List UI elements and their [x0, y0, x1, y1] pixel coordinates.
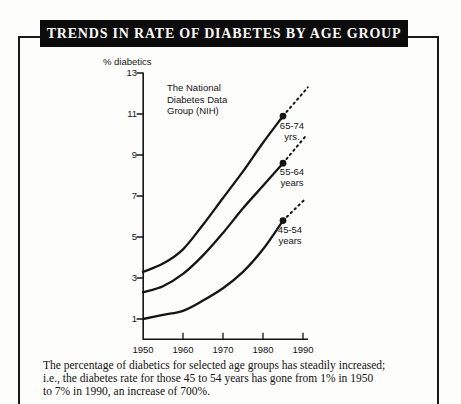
x-axis-ticks [183, 333, 303, 340]
y-tick-7: 7 [111, 190, 137, 202]
x-tick-1990: 1990 [288, 344, 318, 355]
y-axis-ticks [137, 73, 143, 319]
x-tick-1970: 1970 [208, 344, 238, 355]
y-tick-13: 13 [111, 67, 137, 79]
x-tick-1980: 1980 [248, 344, 278, 355]
curve-45-54 [143, 221, 283, 319]
y-axis-label: % diabetics [103, 56, 152, 67]
y-tick-11: 11 [111, 108, 137, 120]
y-tick-3: 3 [111, 272, 137, 284]
x-tick-1960: 1960 [168, 344, 198, 355]
data-point-45-54 [280, 217, 287, 224]
y-tick-1: 1 [111, 313, 137, 325]
series-label-65-74: 65-74 yrs. [276, 121, 308, 142]
series-label-45-54: 45-54 years [274, 225, 306, 246]
diabetes-trends-figure: TRENDS IN RATE OF DIABETES BY AGE GROUP … [0, 0, 461, 404]
x-tick-1950: 1950 [128, 344, 158, 355]
projection-65-74 [283, 87, 308, 116]
figure-caption: The percentage of diabetics for selected… [43, 359, 385, 398]
y-tick-9: 9 [111, 149, 137, 161]
data-point-65-74 [280, 113, 287, 120]
curve-55-64 [143, 163, 283, 292]
curve-65-74 [143, 116, 283, 272]
projection-45-54 [283, 198, 306, 221]
y-tick-5: 5 [111, 231, 137, 243]
chart-annotation: The National Diabetes Data Group (NIH) [167, 82, 227, 117]
series-label-55-64: 55-64 years [276, 167, 308, 188]
